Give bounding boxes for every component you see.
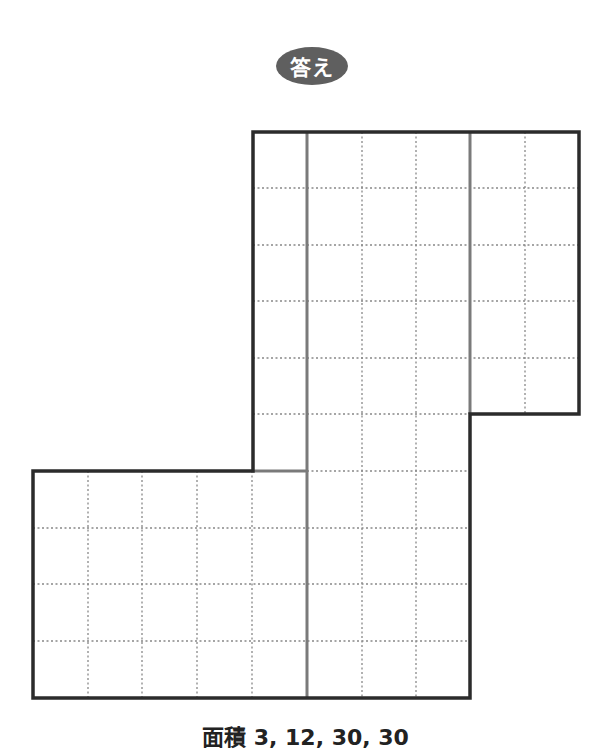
area-caption: 面積 3, 12, 30, 30	[0, 719, 611, 751]
region-dividers	[253, 132, 470, 698]
